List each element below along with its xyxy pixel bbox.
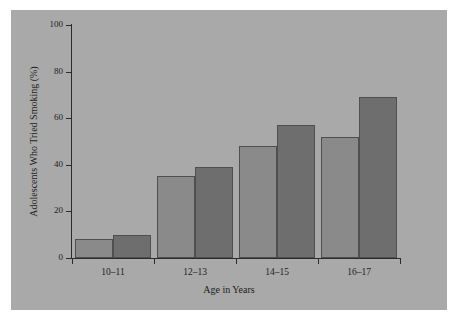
bar <box>113 235 151 258</box>
bar <box>321 137 359 258</box>
y-axis-title: Adolescents Who Tried Smoking (%) <box>28 31 39 251</box>
x-axis-tick <box>72 259 73 264</box>
x-axis-tick-label: 10–11 <box>72 267 154 277</box>
bar <box>239 146 277 258</box>
bar <box>157 176 195 258</box>
y-axis-tick <box>66 72 71 73</box>
x-axis-tick-label: 16–17 <box>318 267 400 277</box>
x-axis-tick <box>236 259 237 264</box>
x-axis-tick-label: 14–15 <box>236 267 318 277</box>
y-axis-tick <box>66 165 71 166</box>
bar <box>195 167 233 258</box>
y-axis-tick-label: 100 <box>11 20 63 29</box>
y-axis-tick <box>66 211 71 212</box>
bar <box>359 97 397 258</box>
y-axis-tick <box>66 25 71 26</box>
y-axis-tick <box>66 118 71 119</box>
chart-panel: 020406080100 10–1112–1314–1516–17 Age in… <box>11 10 447 310</box>
bar <box>75 239 113 258</box>
x-axis-tick-label: 12–13 <box>154 267 236 277</box>
y-axis-tick-label: 0 <box>11 253 63 262</box>
x-axis-tick <box>400 259 401 264</box>
bar <box>277 125 315 258</box>
x-axis-tick <box>154 259 155 264</box>
x-axis-tick <box>318 259 319 264</box>
y-axis-tick <box>66 258 71 259</box>
plot-area <box>72 25 400 258</box>
x-axis-title: Age in Years <box>11 284 447 295</box>
chart-figure: 020406080100 10–1112–1314–1516–17 Age in… <box>0 0 458 322</box>
